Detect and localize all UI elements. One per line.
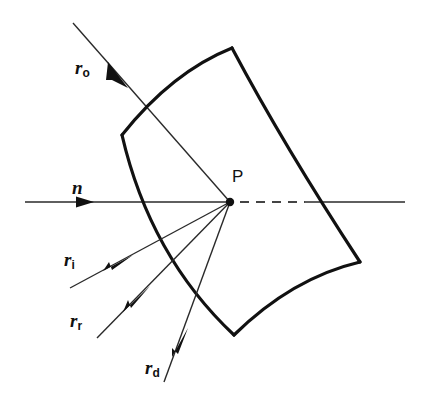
ray-ro-group	[73, 23, 230, 202]
surface-patch-bottom-edge	[234, 262, 360, 335]
label-normal-vector: n	[72, 178, 83, 197]
ray-rd-line	[164, 202, 230, 382]
label-diffuse-ray: rd	[145, 358, 160, 377]
label-reflected-ray-subscript: r	[77, 319, 82, 333]
label-illumination-ray-subscript: i	[71, 258, 74, 272]
surface-patch-top-edge	[122, 48, 232, 135]
intersection-point-marker	[226, 198, 234, 206]
label-diffuse-ray-subscript: d	[152, 366, 159, 380]
ray-rd-arrowhead-icon	[172, 328, 188, 357]
normal-axis-arrowhead-icon	[76, 197, 94, 208]
surface-patch-right-edge	[232, 48, 360, 262]
diagram-canvas	[0, 0, 423, 408]
ray-rr-line	[97, 202, 230, 338]
ray-fan-group	[70, 202, 230, 382]
normal-axis-group	[25, 197, 405, 208]
ray-surface-diagram: ro n ri rr rd P	[0, 0, 423, 408]
surface-patch-group	[122, 48, 360, 335]
label-incident-ray-subscript: o	[82, 66, 89, 80]
label-reflected-ray: rr	[70, 311, 82, 330]
ray-ro-line	[73, 23, 230, 202]
label-illumination-ray: ri	[64, 250, 75, 269]
label-intersection-point: P	[232, 168, 243, 185]
label-normal-vector-symbol: n	[72, 177, 83, 198]
ray-ro-arrowhead-icon	[106, 62, 128, 88]
label-incident-ray: ro	[75, 58, 90, 77]
